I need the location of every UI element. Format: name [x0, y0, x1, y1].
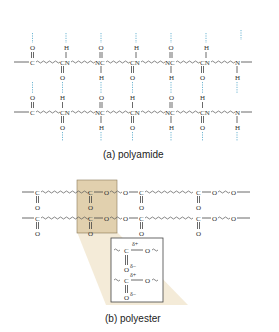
polyamide-caption: (a) polyamide: [103, 149, 164, 160]
svg-text:O: O: [200, 74, 205, 82]
svg-text:CN: CN: [60, 59, 70, 67]
svg-text:NC: NC: [95, 59, 105, 67]
svg-text:O: O: [104, 189, 109, 197]
polyester-caption: (b) polyester: [105, 313, 161, 324]
svg-text:O: O: [124, 266, 129, 274]
svg-text:O: O: [35, 204, 40, 212]
svg-text:δ+: δ+: [132, 241, 139, 247]
svg-text:H: H: [99, 74, 104, 82]
svg-text:C: C: [124, 247, 129, 255]
svg-text:O: O: [88, 204, 93, 212]
svg-text:CN: CN: [60, 109, 70, 117]
svg-text:O: O: [200, 124, 205, 132]
polyamide-chain-2: O H O H O H C CN NC CN NC CN N O H O H: [14, 94, 252, 141]
svg-text:δ−: δ−: [130, 263, 137, 269]
svg-text:O: O: [169, 94, 174, 102]
svg-text:H: H: [235, 74, 240, 82]
svg-text:O: O: [139, 204, 144, 212]
svg-text:CN: CN: [130, 59, 140, 67]
polyamide-chain-1: C CN NC CN NC CN N O H O H O H: [14, 30, 252, 82]
svg-text:N: N: [235, 59, 240, 67]
svg-text:CN: CN: [200, 109, 210, 117]
svg-text:H: H: [169, 74, 174, 82]
svg-text:C: C: [139, 189, 144, 197]
svg-text:O: O: [60, 124, 65, 132]
svg-text:O: O: [123, 215, 128, 223]
svg-text:H: H: [60, 94, 65, 102]
svg-text:δ−: δ−: [130, 291, 137, 297]
svg-text:O: O: [139, 230, 144, 238]
svg-text:C: C: [139, 215, 144, 223]
svg-text:C: C: [88, 189, 93, 197]
svg-text:O: O: [104, 215, 109, 223]
svg-text:C: C: [88, 215, 93, 223]
svg-text:O: O: [124, 294, 129, 302]
svg-text:O: O: [196, 230, 201, 238]
up-groups: O H O H O H: [30, 44, 209, 58]
svg-text:CN: CN: [130, 109, 140, 117]
svg-text:C: C: [30, 59, 35, 67]
svg-text:C: C: [196, 189, 201, 197]
svg-text:O: O: [99, 94, 104, 102]
svg-text:O: O: [212, 189, 217, 197]
svg-text:H: H: [235, 124, 240, 132]
svg-text:H: H: [169, 124, 174, 132]
svg-text:O: O: [123, 189, 128, 197]
svg-text:O: O: [145, 277, 150, 285]
svg-text:H: H: [130, 94, 135, 102]
svg-text:H: H: [64, 44, 69, 52]
polyester-chain-2: C C O O C C O O O O O O: [22, 215, 250, 239]
highlight-box: [77, 180, 117, 233]
svg-text:CN: CN: [200, 59, 210, 67]
svg-text:C: C: [35, 215, 40, 223]
polyester-chain-1: C C O O C C O O O O O O: [22, 189, 250, 213]
svg-text:O: O: [99, 44, 104, 52]
svg-text:O: O: [212, 215, 217, 223]
svg-text:H: H: [200, 94, 205, 102]
svg-text:C: C: [196, 215, 201, 223]
svg-text:C: C: [35, 189, 40, 197]
hydrogen-bonds-between-chains: [33, 82, 238, 93]
svg-text:H: H: [204, 44, 209, 52]
svg-text:O: O: [130, 74, 135, 82]
svg-text:O: O: [30, 94, 35, 102]
hydrogen-bonds-top: [33, 30, 242, 43]
svg-text:H: H: [99, 124, 104, 132]
svg-text:NC: NC: [165, 109, 175, 117]
svg-text:C: C: [30, 109, 35, 117]
dipole-inset: C δ+ O O δ− C δ+ O O δ−: [111, 238, 163, 302]
svg-text:O: O: [196, 204, 201, 212]
svg-text:O: O: [88, 230, 93, 238]
svg-text:N: N: [235, 109, 240, 117]
svg-text:H: H: [134, 44, 139, 52]
polymer-diagram: C CN NC CN NC CN N O H O H O H: [0, 0, 279, 332]
svg-text:O: O: [30, 44, 35, 52]
svg-text:δ+: δ+: [130, 272, 137, 278]
svg-text:O: O: [231, 215, 236, 223]
svg-text:O: O: [231, 189, 236, 197]
svg-text:O: O: [130, 124, 135, 132]
svg-text:NC: NC: [95, 109, 105, 117]
svg-text:O: O: [145, 247, 150, 255]
down-groups: O H O H O H: [60, 66, 240, 82]
svg-text:O: O: [35, 230, 40, 238]
svg-text:C: C: [124, 277, 129, 285]
svg-text:O: O: [169, 44, 174, 52]
svg-text:NC: NC: [165, 59, 175, 67]
svg-text:O: O: [60, 74, 65, 82]
